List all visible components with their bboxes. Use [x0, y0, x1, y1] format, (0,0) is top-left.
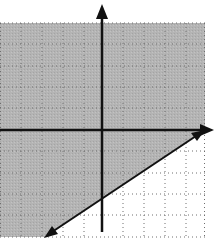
- y-axis-arrow-icon: [96, 4, 108, 19]
- inequality-graph: [0, 0, 214, 245]
- x-axis-arrow-icon: [200, 124, 214, 136]
